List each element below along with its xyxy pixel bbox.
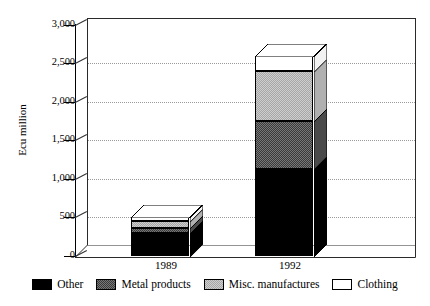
chart-legend: Other Metal products Misc. manufactures … xyxy=(0,276,430,292)
bar-segment-1992-clothing xyxy=(255,56,313,71)
y-tick-label-500: 500 xyxy=(29,211,75,221)
segment-front-face xyxy=(256,122,312,168)
y-tick-label-2000: 2,000 xyxy=(29,96,75,106)
depth-connector-2500 xyxy=(75,57,87,64)
segment-front-face xyxy=(132,222,188,227)
legend-label-other: Other xyxy=(57,278,83,290)
legend-item-metal-products[interactable]: Metal products xyxy=(96,278,190,290)
y-tick-label-1500: 1,500 xyxy=(29,134,75,144)
depth-connector-1000 xyxy=(75,173,87,180)
legend-item-clothing[interactable]: Clothing xyxy=(332,278,397,290)
swatch-other-icon xyxy=(32,279,52,290)
swatch-clothing-icon xyxy=(332,279,352,290)
bar-segment-1992-misc-manufactures xyxy=(255,71,313,121)
depth-connector-2000 xyxy=(75,96,87,103)
legend-label-clothing: Clothing xyxy=(357,278,397,290)
segment-front-face xyxy=(256,72,312,120)
y-tick-label-1000: 1,000 xyxy=(29,173,75,183)
depth-connector-3000 xyxy=(75,19,87,26)
bar-1992 xyxy=(255,0,326,257)
legend-item-other[interactable]: Other xyxy=(32,278,83,290)
swatch-misc-manufactures-icon xyxy=(204,279,224,290)
segment-front-face xyxy=(132,234,188,255)
segment-front-face xyxy=(132,218,188,220)
segment-front-face xyxy=(132,229,188,232)
x-tick-label-1992: 1992 xyxy=(250,259,330,271)
y-axis-title: Ecu million xyxy=(16,90,28,170)
legend-item-misc-manufactures[interactable]: Misc. manufactures xyxy=(204,278,320,290)
y-tick-label-2500: 2,500 xyxy=(29,57,75,67)
swatch-metal-products-icon xyxy=(96,279,116,290)
depth-connector-500 xyxy=(75,211,87,218)
segment-side-face xyxy=(314,157,327,257)
plot-floor xyxy=(75,245,416,258)
bar-segment-1989-metal-products xyxy=(131,228,189,233)
legend-label-misc-manufactures: Misc. manufactures xyxy=(229,278,320,290)
x-tick-label-1989: 1989 xyxy=(126,259,206,271)
bar-segment-1992-metal-products xyxy=(255,121,313,169)
bar-top-cap-1992 xyxy=(255,43,326,56)
legend-label-metal-products: Metal products xyxy=(121,278,190,290)
segment-front-face xyxy=(256,170,312,255)
y-tick-label-0: 0 xyxy=(29,250,75,260)
bar-top-cap-1989 xyxy=(131,204,202,217)
bar-1989 xyxy=(131,0,202,257)
y-tick-label-3000: 3,000 xyxy=(29,19,75,29)
bar-segment-1989-other xyxy=(131,233,189,256)
segment-front-face xyxy=(256,57,312,70)
stacked-bar-chart: 3,000 2,500 2,000 1,500 1,000 500 0 Ecu … xyxy=(0,0,430,306)
bar-segment-1989-misc-manufactures xyxy=(131,221,189,228)
bar-segment-1992-other xyxy=(255,169,313,256)
depth-connector-1500 xyxy=(75,134,87,141)
